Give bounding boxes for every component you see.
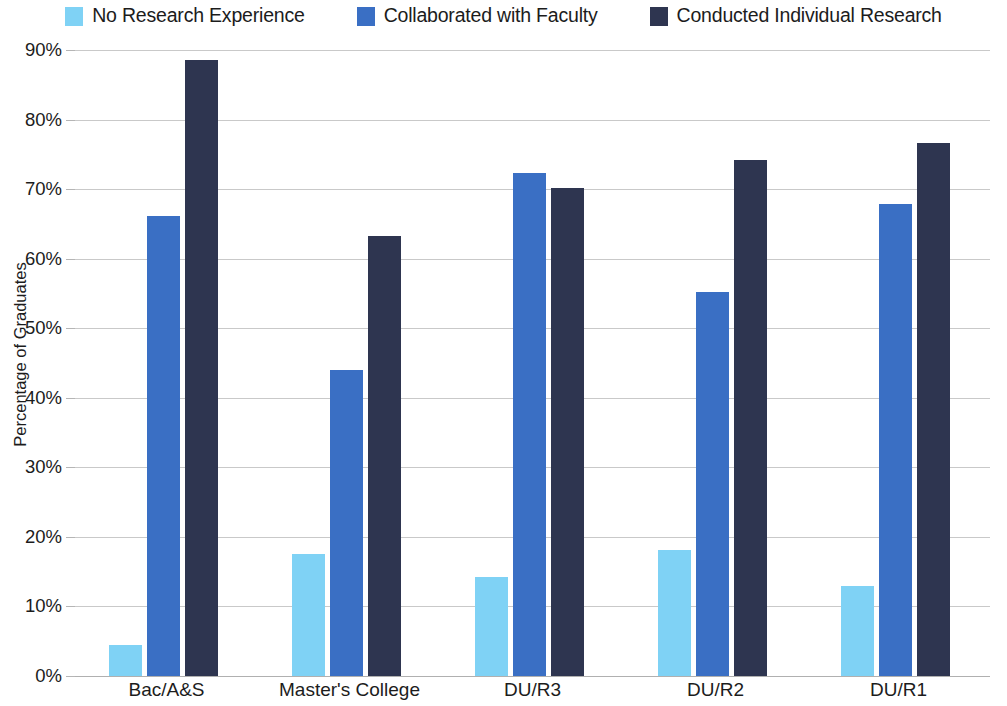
x-axis-tick-label: DU/R1 xyxy=(870,679,927,701)
bar[interactable] xyxy=(185,60,218,676)
plot-area xyxy=(75,50,990,676)
legend-label: Conducted Individual Research xyxy=(677,6,942,26)
legend-item[interactable]: Conducted Individual Research xyxy=(650,6,942,26)
legend-swatch-icon xyxy=(650,7,668,26)
bar-chart: No Research ExperienceCollaborated with … xyxy=(0,0,1007,706)
y-axis-tick-label: 60% xyxy=(0,248,62,270)
y-axis-tick-label: 90% xyxy=(0,39,62,61)
y-axis-tick-mark xyxy=(66,467,75,468)
bar[interactable] xyxy=(109,645,142,676)
bar[interactable] xyxy=(368,236,401,676)
y-axis-tick-label: 40% xyxy=(0,387,62,409)
axis-baseline xyxy=(75,676,990,678)
bar-group xyxy=(475,50,584,676)
y-axis-tick-mark xyxy=(66,537,75,538)
y-axis-tick-mark xyxy=(66,398,75,399)
x-axis-tick-label: DU/R3 xyxy=(504,679,561,701)
y-axis-tick-label: 80% xyxy=(0,109,62,131)
y-axis-tick-label: 0% xyxy=(0,665,62,687)
bar-group xyxy=(841,50,950,676)
y-axis-tick-label: 30% xyxy=(0,456,62,478)
bar-group xyxy=(109,50,218,676)
y-axis-tick-mark xyxy=(66,120,75,121)
y-axis-tick-label: 70% xyxy=(0,178,62,200)
bar[interactable] xyxy=(879,204,912,676)
y-axis-tick-label: 20% xyxy=(0,526,62,548)
bar-group xyxy=(292,50,401,676)
legend-swatch-icon xyxy=(65,7,83,26)
bar[interactable] xyxy=(330,370,363,676)
y-axis-tick-mark xyxy=(66,50,75,51)
y-axis-tick-mark xyxy=(66,259,75,260)
bar[interactable] xyxy=(292,554,325,676)
bar[interactable] xyxy=(147,216,180,676)
y-axis-tick-mark xyxy=(66,189,75,190)
y-axis-tick-label: 50% xyxy=(0,317,62,339)
x-axis-tick-label: DU/R2 xyxy=(687,679,744,701)
bar[interactable] xyxy=(551,188,584,676)
bar[interactable] xyxy=(734,160,767,676)
bar[interactable] xyxy=(513,173,546,676)
x-axis-labels: Bac/A&SMaster's CollegeDU/R3DU/R2DU/R1 xyxy=(75,679,990,706)
bar-group xyxy=(658,50,767,676)
legend-item[interactable]: No Research Experience xyxy=(65,6,304,26)
bar[interactable] xyxy=(658,550,691,676)
bar[interactable] xyxy=(917,143,950,676)
x-axis-tick-label: Master's College xyxy=(279,679,420,701)
legend-label: No Research Experience xyxy=(92,6,304,26)
x-axis-tick-label: Bac/A&S xyxy=(128,679,204,701)
legend-label: Collaborated with Faculty xyxy=(384,6,598,26)
bar[interactable] xyxy=(841,586,874,676)
y-axis-tick-mark xyxy=(66,676,75,677)
legend-item[interactable]: Collaborated with Faculty xyxy=(357,6,598,26)
bar[interactable] xyxy=(475,577,508,676)
y-axis-tick-label: 10% xyxy=(0,595,62,617)
chart-legend: No Research ExperienceCollaborated with … xyxy=(0,0,1007,32)
y-axis-tick-mark xyxy=(66,606,75,607)
bar[interactable] xyxy=(696,292,729,676)
legend-swatch-icon xyxy=(357,7,375,26)
y-axis-tick-mark xyxy=(66,328,75,329)
bar-groups xyxy=(75,50,990,676)
